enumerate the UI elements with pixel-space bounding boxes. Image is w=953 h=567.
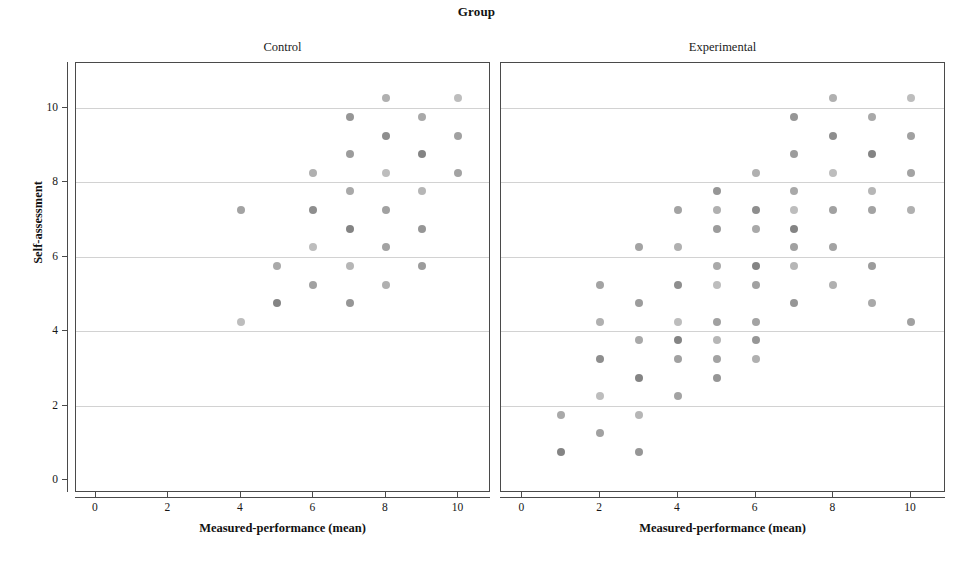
data-point [868, 187, 876, 195]
data-point [790, 187, 798, 195]
gridline [501, 182, 944, 183]
data-point [829, 243, 837, 251]
data-point [907, 132, 915, 140]
data-point [790, 150, 798, 158]
data-point [596, 429, 604, 437]
data-point [868, 150, 876, 158]
x-tick-label: 8 [817, 501, 847, 513]
data-point [418, 113, 426, 121]
data-point [596, 281, 604, 289]
data-point [868, 299, 876, 307]
data-point [713, 187, 721, 195]
data-point [346, 113, 354, 121]
x-tick-mark [599, 492, 600, 498]
data-point [752, 318, 760, 326]
y-tick-label: 10 [30, 101, 58, 113]
x-tick-mark [167, 492, 168, 498]
data-point [635, 411, 643, 419]
data-point [674, 318, 682, 326]
data-point [790, 262, 798, 270]
x-axis-line-experimental [500, 497, 945, 498]
x-tick-label: 4 [662, 501, 692, 513]
x-tick-label: 10 [895, 501, 925, 513]
data-point [635, 448, 643, 456]
gridline [76, 182, 489, 183]
data-point [674, 336, 682, 344]
plot-panel-control [75, 62, 490, 492]
y-tick-mark [62, 479, 68, 480]
y-tick-label: 4 [30, 324, 58, 336]
data-point [752, 225, 760, 233]
data-point [752, 336, 760, 344]
y-axis-title: Self-assessment [31, 123, 46, 323]
data-point [713, 206, 721, 214]
data-point [674, 392, 682, 400]
x-tick-label: 8 [370, 501, 400, 513]
x-axis-line-control [75, 497, 490, 498]
data-point [674, 355, 682, 363]
x-tick-label: 2 [584, 501, 614, 513]
x-tick-mark [240, 492, 241, 498]
data-point [713, 262, 721, 270]
x-tick-label: 2 [152, 501, 182, 513]
y-tick-label: 2 [30, 399, 58, 411]
data-point [454, 169, 462, 177]
data-point [557, 411, 565, 419]
x-tick-mark [677, 492, 678, 498]
data-point [418, 150, 426, 158]
data-point [829, 132, 837, 140]
y-tick-mark [62, 181, 68, 182]
x-tick-mark [385, 492, 386, 498]
y-tick-mark [62, 256, 68, 257]
data-point [418, 262, 426, 270]
data-point [382, 281, 390, 289]
data-point [454, 94, 462, 102]
data-point [790, 243, 798, 251]
x-tick-mark [755, 492, 756, 498]
data-point [635, 374, 643, 382]
data-point [713, 318, 721, 326]
data-point [273, 299, 281, 307]
gridline [76, 108, 489, 109]
data-point [382, 94, 390, 102]
y-tick-label: 0 [30, 473, 58, 485]
data-point [713, 374, 721, 382]
x-axis-title-control: Measured-performance (mean) [75, 521, 490, 536]
data-point [596, 318, 604, 326]
y-tick-mark [62, 405, 68, 406]
data-point [752, 206, 760, 214]
data-point [907, 318, 915, 326]
data-point [907, 169, 915, 177]
data-point [346, 187, 354, 195]
data-point [674, 281, 682, 289]
plot-panel-experimental [500, 62, 945, 492]
data-point [382, 169, 390, 177]
data-point [790, 206, 798, 214]
x-tick-label: 4 [225, 501, 255, 513]
data-point [557, 448, 565, 456]
data-point [868, 206, 876, 214]
data-point [382, 206, 390, 214]
data-point [674, 206, 682, 214]
data-point [829, 281, 837, 289]
page-title: Group [0, 4, 953, 20]
data-point [752, 262, 760, 270]
data-point [752, 355, 760, 363]
data-point [273, 262, 281, 270]
panel-strip-label-control: Control [75, 40, 490, 55]
data-point [907, 94, 915, 102]
data-point [346, 262, 354, 270]
x-tick-mark [832, 492, 833, 498]
x-tick-mark [95, 492, 96, 498]
data-point [346, 225, 354, 233]
gridline [76, 406, 489, 407]
x-tick-label: 6 [740, 501, 770, 513]
data-point [418, 225, 426, 233]
data-point [790, 113, 798, 121]
data-point [382, 243, 390, 251]
x-tick-label: 6 [297, 501, 327, 513]
data-point [309, 169, 317, 177]
data-point [635, 243, 643, 251]
data-point [829, 94, 837, 102]
y-axis-line [67, 62, 68, 492]
